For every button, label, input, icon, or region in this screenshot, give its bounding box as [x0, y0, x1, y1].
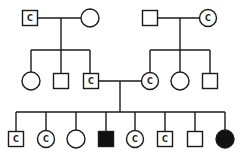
male-affected-icon: [99, 132, 114, 147]
individual-II-5: [171, 72, 189, 90]
individual-III-7: [188, 132, 203, 147]
individual-I-2: [81, 9, 99, 27]
female-unaffected-icon: [171, 72, 189, 90]
male-unaffected-icon: [188, 132, 203, 147]
female-affected-icon: [216, 130, 234, 148]
svg-text:C: C: [27, 14, 33, 23]
svg-text:C: C: [162, 135, 168, 144]
individual-II-6: [203, 74, 218, 89]
female-unaffected-icon: [22, 72, 40, 90]
svg-text:C: C: [147, 77, 153, 86]
individual-III-2: C: [38, 131, 55, 148]
individual-II-1: [22, 72, 40, 90]
individual-III-6: C: [158, 132, 173, 147]
individual-II-4: C: [142, 73, 159, 90]
male-unaffected-icon: [203, 74, 218, 89]
individual-III-5: C: [127, 131, 144, 148]
individual-I-4: C: [200, 10, 217, 27]
individual-III-3: [67, 130, 85, 148]
svg-text:C: C: [43, 135, 49, 144]
individual-III-4: [99, 132, 114, 147]
female-unaffected-icon: [81, 9, 99, 27]
pedigree-diagram: C C C C C C C: [0, 0, 242, 158]
individual-III-1: C: [9, 132, 24, 147]
male-unaffected-icon: [143, 11, 158, 26]
marriage-line-I-3-I-4: [150, 18, 210, 73]
individual-II-2: [54, 74, 69, 89]
individual-I-3: [143, 11, 158, 26]
individual-III-8: [216, 130, 234, 148]
female-unaffected-icon: [67, 130, 85, 148]
svg-text:C: C: [13, 135, 19, 144]
male-unaffected-icon: [54, 74, 69, 89]
individual-II-3: C: [84, 74, 99, 89]
marriage-line-II-3-II-4: [16, 81, 225, 131]
svg-text:C: C: [132, 135, 138, 144]
svg-text:C: C: [205, 14, 211, 23]
marriage-line-I-1-I-2: [31, 18, 90, 73]
individual-I-1: C: [23, 11, 38, 26]
svg-text:C: C: [88, 77, 94, 86]
